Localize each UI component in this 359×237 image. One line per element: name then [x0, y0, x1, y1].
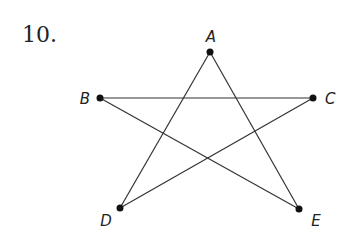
segment-CD	[120, 98, 313, 208]
point-label-A: A	[205, 28, 216, 46]
point-A	[207, 49, 214, 56]
segment-AD	[120, 52, 210, 208]
segment-BE	[100, 98, 299, 209]
point-D	[117, 205, 124, 212]
point-C	[310, 95, 317, 102]
segment-AE	[210, 52, 299, 209]
segments	[100, 52, 313, 209]
point-label-E: E	[311, 212, 321, 230]
point-label-C: C	[325, 90, 336, 108]
point-label-D: D	[100, 212, 112, 230]
point-B	[97, 95, 104, 102]
star-diagram: ABCDE	[0, 0, 359, 237]
points: ABCDE	[80, 28, 336, 230]
point-label-B: B	[80, 90, 90, 108]
point-E	[296, 206, 303, 213]
